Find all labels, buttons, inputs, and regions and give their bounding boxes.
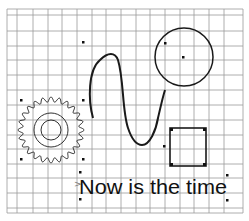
selection-handle[interactable]	[82, 41, 85, 44]
selection-handle[interactable]	[182, 56, 185, 59]
selection-handle[interactable]	[226, 174, 229, 177]
gear-ring-inner	[41, 120, 61, 140]
selection-handle[interactable]	[203, 163, 206, 166]
gear-shape[interactable]	[18, 97, 84, 163]
selection-handle[interactable]	[82, 158, 85, 161]
selection-handle[interactable]	[79, 198, 82, 201]
selection-handle[interactable]	[226, 199, 229, 202]
wave-curve-shape[interactable]	[90, 54, 165, 145]
selection-handle[interactable]	[79, 171, 82, 174]
selection-handle[interactable]	[170, 128, 173, 131]
gear-outline	[18, 97, 84, 163]
selection-handle[interactable]	[170, 163, 173, 166]
selection-handle[interactable]	[203, 128, 206, 131]
selection-handle[interactable]	[82, 99, 85, 102]
text-box-caption[interactable]: Now is the time	[79, 175, 227, 198]
square-shape[interactable]	[170, 128, 206, 166]
selection-handle[interactable]	[164, 42, 167, 45]
selection-handle[interactable]	[20, 99, 23, 102]
gear-selection-handles	[20, 41, 85, 161]
drawing-canvas[interactable]: > Now is the time	[0, 0, 249, 221]
selection-handle[interactable]	[163, 145, 166, 148]
gear-ring-outer	[34, 113, 68, 147]
selection-handle[interactable]	[20, 158, 23, 161]
